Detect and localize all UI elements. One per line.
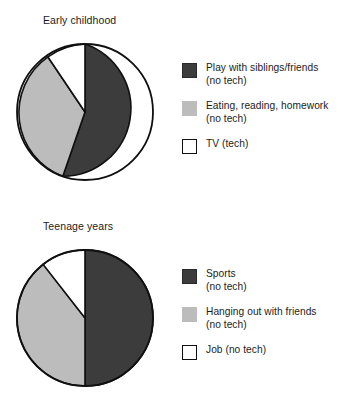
legend-label-line1: TV (tech) [206,138,248,149]
legend-label-line1: Eating, reading, homework [206,100,328,111]
legend-label-line1: Hanging out with friends [206,306,317,317]
pie-chart-early-childhood [14,32,159,187]
legend-swatch-white-icon [182,345,197,360]
chart-title-teenage-years: Teenage years [43,220,113,233]
legend-item[interactable]: Hanging out with friends (no tech) [182,306,338,331]
legend-label: TV (tech) [206,138,248,151]
legend-label-line2: (no tech) [206,75,318,88]
legend-label-line2: (no tech) [206,319,317,332]
legend-label: Hanging out with friends (no tech) [206,306,317,331]
legend-label-line1: Play with siblings/friends [206,62,318,73]
legend-swatch-dark-icon [182,269,197,284]
legend-label-line2: (no tech) [206,281,247,294]
legend-label: Sports (no tech) [206,268,247,293]
legend-swatch-dark-icon [182,63,197,78]
pie-svg-early-childhood [14,32,159,187]
pie-svg-teenage-years [14,238,159,393]
legend-early-childhood: Play with siblings/friends (no tech) Eat… [182,62,338,154]
legend-item[interactable]: Eating, reading, homework (no tech) [182,100,338,125]
legend-label: Eating, reading, homework (no tech) [206,100,328,125]
legend-label-line1: Sports [206,268,236,279]
legend-swatch-gray-icon [182,307,197,322]
legend-item[interactable]: Play with siblings/friends (no tech) [182,62,338,87]
pie-chart-teenage-years [14,238,159,393]
chart-title-early-childhood: Early childhood [43,14,116,27]
legend-teenage-years: Sports (no tech) Hanging out with friend… [182,268,338,360]
legend-label: Play with siblings/friends (no tech) [206,62,318,87]
figure-teenage-years: Teenage years Sports (no tech) Hanging o… [0,206,342,408]
legend-item[interactable]: TV (tech) [182,138,338,154]
figure-early-childhood: Early childhood Play with siblings/frien… [0,0,342,204]
legend-label-line1: Job (no tech) [206,344,266,355]
legend-swatch-white-icon [182,139,197,154]
legend-swatch-gray-icon [182,101,197,116]
pie-slice-sports [85,250,153,386]
legend-item[interactable]: Sports (no tech) [182,268,338,293]
legend-label-line2: (no tech) [206,113,328,126]
legend-label: Job (no tech) [206,344,266,357]
legend-item[interactable]: Job (no tech) [182,344,338,360]
